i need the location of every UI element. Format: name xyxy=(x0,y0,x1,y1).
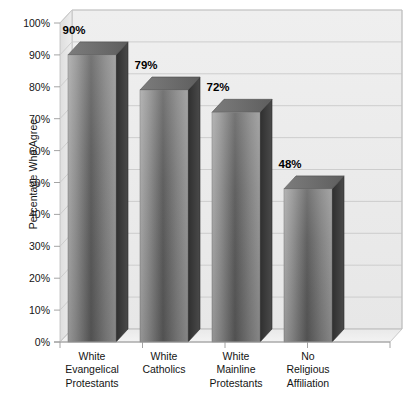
bar-chart: Percentage Who Agree 0%10%20%30%40%50%60… xyxy=(0,0,410,405)
bar-value-label: 79% xyxy=(116,60,176,72)
chart-overlay: 90%White Evangelical Protestants79%White… xyxy=(0,0,410,405)
bar-value-label: 48% xyxy=(260,159,320,171)
bar-value-label: 72% xyxy=(188,82,248,94)
x-axis-category-label: No Religious Affiliation xyxy=(262,350,354,390)
bar-value-label: 90% xyxy=(44,25,104,37)
